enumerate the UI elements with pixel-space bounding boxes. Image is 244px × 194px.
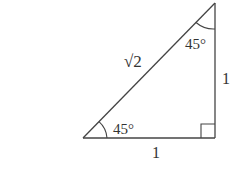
right-angle-marker bbox=[201, 124, 215, 138]
angle-arc-bottom-left bbox=[99, 122, 107, 138]
angle-arc-top bbox=[196, 23, 215, 30]
height-label: 1 bbox=[222, 70, 230, 87]
hypotenuse-label: √2 bbox=[124, 52, 142, 71]
triangle-hypotenuse bbox=[83, 3, 215, 138]
angle-label-top: 45° bbox=[185, 36, 206, 52]
triangle-diagram: 45° 45° √2 1 1 bbox=[0, 0, 244, 194]
angle-label-bottom-left: 45° bbox=[113, 121, 134, 137]
base-label: 1 bbox=[152, 144, 160, 161]
